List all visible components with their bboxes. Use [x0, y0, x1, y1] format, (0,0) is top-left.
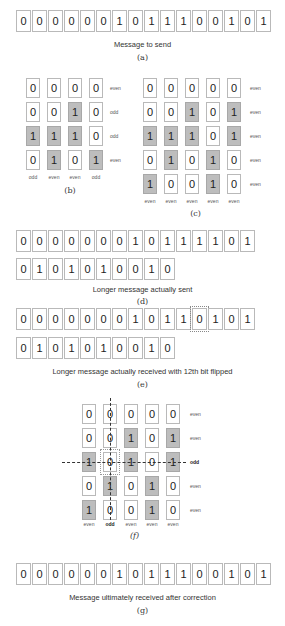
bit: 0 — [128, 258, 143, 280]
bit: 1 — [160, 563, 175, 585]
bit: 0 — [128, 563, 143, 585]
bit: 1 — [128, 230, 143, 252]
grid-cell: 0 — [206, 126, 220, 146]
grid-cell: 1 — [47, 126, 61, 146]
row-parity-label: even — [110, 85, 121, 91]
column-parity-label: even — [65, 174, 85, 180]
grid-cell: 0 — [166, 404, 180, 424]
grid-cell: 0 — [143, 78, 157, 98]
grid-cell: 0 — [206, 78, 220, 98]
bit: 1 — [224, 563, 239, 585]
bit: 0 — [48, 337, 63, 359]
bit: 1 — [176, 230, 191, 252]
bit: 0 — [160, 258, 175, 280]
bit: 1 — [160, 10, 175, 32]
grid-cell: 0 — [26, 150, 40, 170]
column-parity-label: even — [161, 198, 181, 204]
grid-cell: 0 — [47, 102, 61, 122]
label-d: (d) — [0, 297, 285, 306]
column-parity-label: even — [224, 198, 244, 204]
bit: 0 — [240, 10, 255, 32]
bit: 1 — [176, 10, 191, 32]
grid-cell: 1 — [145, 500, 159, 520]
grid-cell: 0 — [206, 102, 220, 122]
bit: 0 — [208, 10, 223, 32]
message-to-send-row: 0000001011100101 — [16, 10, 272, 32]
grid-cell: 0 — [164, 78, 178, 98]
bit: 1 — [192, 230, 207, 252]
flipped-bit: 0 — [192, 308, 207, 330]
bit: 0 — [64, 10, 79, 32]
bit: 1 — [176, 563, 191, 585]
bit: 0 — [80, 308, 95, 330]
label-c: (c) — [143, 209, 248, 218]
bit: 1 — [32, 337, 47, 359]
bit: 0 — [192, 10, 207, 32]
bit: 0 — [112, 337, 127, 359]
grid-cell: 1 — [185, 102, 199, 122]
bit: 0 — [80, 258, 95, 280]
bit: 0 — [48, 563, 63, 585]
grid-cell: 0 — [82, 476, 96, 496]
caption-d: Longer message actually sent — [0, 285, 285, 294]
bit: 0 — [112, 308, 127, 330]
column-parity-label: even — [203, 198, 223, 204]
row-parity-label: even — [190, 411, 201, 417]
grid-cell: 1 — [227, 102, 241, 122]
label-f: (f) — [82, 531, 187, 540]
column-parity-label: even — [163, 521, 183, 527]
grid-cell: 0 — [145, 428, 159, 448]
grid-cell: 0 — [227, 174, 241, 194]
column-parity-label: even — [121, 521, 141, 527]
bit: 1 — [224, 10, 239, 32]
column-parity-label: odd — [23, 174, 43, 180]
bit: 0 — [240, 563, 255, 585]
grid-cell: 0 — [26, 102, 40, 122]
bit: 0 — [16, 258, 31, 280]
bit: 0 — [16, 308, 31, 330]
bit: 1 — [32, 258, 47, 280]
bit: 1 — [176, 308, 191, 330]
error-row-dashed-line — [62, 462, 186, 463]
bit: 1 — [112, 10, 127, 32]
bit: 1 — [256, 563, 271, 585]
grid-cell: 0 — [164, 174, 178, 194]
bit: 1 — [208, 230, 223, 252]
bit: 0 — [16, 230, 31, 252]
received-message-row-2: 0101010010 — [16, 337, 176, 359]
bit: 1 — [160, 308, 175, 330]
column-parity-label: even — [44, 174, 64, 180]
column-parity-label: even — [142, 521, 162, 527]
bit: 0 — [96, 308, 111, 330]
bit: 0 — [112, 230, 127, 252]
bit: 0 — [16, 563, 31, 585]
bit: 0 — [64, 230, 79, 252]
row-parity-label: odd — [190, 459, 199, 465]
grid-cell: 1 — [26, 126, 40, 146]
bit: 0 — [16, 10, 31, 32]
column-parity-label: even — [140, 198, 160, 204]
received-message-row-1: 000000010110101 — [16, 308, 256, 330]
grid-cell: 1 — [124, 428, 138, 448]
grid-cell: 0 — [89, 102, 103, 122]
bit: 0 — [80, 337, 95, 359]
row-parity-label: even — [190, 435, 201, 441]
column-parity-label: even — [79, 521, 99, 527]
bit: 0 — [160, 337, 175, 359]
bit: 1 — [144, 258, 159, 280]
row-parity-label: even — [190, 483, 201, 489]
sent-message-row-1: 000000010111101 — [16, 230, 256, 252]
bit: 1 — [240, 230, 255, 252]
grid-cell: 1 — [68, 126, 82, 146]
bit: 1 — [144, 10, 159, 32]
bit: 1 — [128, 308, 143, 330]
grid-cell: 0 — [227, 150, 241, 170]
caption-g: Message ultimately received after correc… — [0, 593, 285, 602]
grid-cell: 1 — [227, 126, 241, 146]
column-parity-label: odd — [86, 174, 106, 180]
column-parity-label: odd — [100, 521, 120, 527]
bit: 0 — [32, 563, 47, 585]
grid-cell: 0 — [145, 404, 159, 424]
grid-cell: 1 — [166, 428, 180, 448]
bit: 1 — [160, 230, 175, 252]
